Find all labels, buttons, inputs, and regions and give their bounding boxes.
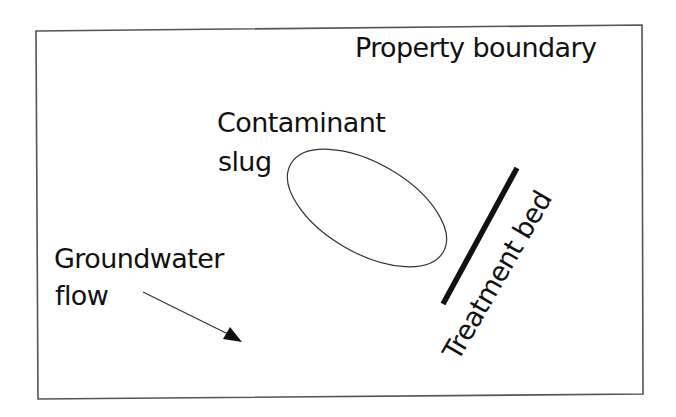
contaminant-label-line2: slug: [218, 146, 271, 177]
property-boundary-box: [36, 25, 643, 399]
contaminant-label-line1: Contaminant: [217, 107, 385, 138]
treatment-bed-label: Treatment bed: [436, 186, 558, 366]
groundwater-label-line1: Groundwater: [54, 243, 225, 274]
site-diagram: Property boundary Contaminant slug Treat…: [0, 0, 676, 417]
groundwater-label-line2: flow: [55, 280, 108, 311]
flow-arrow-icon: [143, 292, 242, 342]
contaminant-slug-ellipse: [268, 125, 465, 291]
property-boundary-label: Property boundary: [355, 32, 597, 63]
